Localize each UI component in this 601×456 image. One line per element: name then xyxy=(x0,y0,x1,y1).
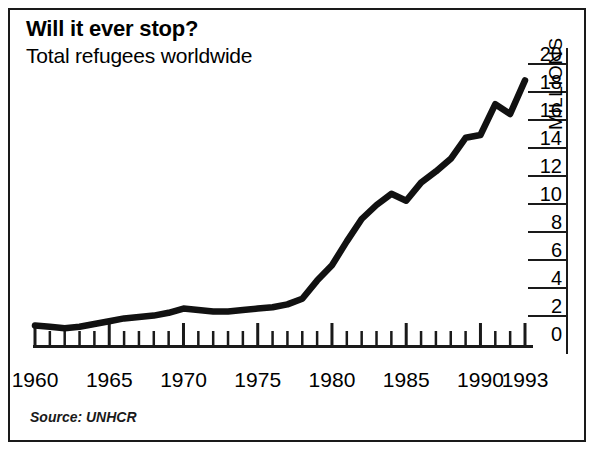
y-axis-tick-label: 12 xyxy=(540,156,562,176)
x-axis-minor-tick xyxy=(212,331,215,345)
y-axis-tick-rule xyxy=(528,287,568,289)
x-axis-major-tick xyxy=(182,323,185,345)
x-axis-minor-tick xyxy=(63,331,66,345)
x-axis-tick-label: 1990 xyxy=(457,368,504,392)
x-axis-minor-tick xyxy=(435,331,438,345)
x-axis-minor-tick xyxy=(316,331,319,345)
y-axis-tick-rule xyxy=(528,231,568,233)
x-axis-minor-tick xyxy=(420,331,423,345)
x-axis-minor-tick xyxy=(123,331,126,345)
x-axis-minor-tick xyxy=(197,331,200,345)
x-axis-minor-tick xyxy=(390,331,393,345)
y-axis-tick-label: 2 xyxy=(551,296,562,316)
x-axis-tick-label: 1993 xyxy=(502,368,549,392)
x-axis-minor-tick xyxy=(93,331,96,345)
y-axis-tick-rule xyxy=(528,259,568,261)
x-axis-tick-label: 1980 xyxy=(309,368,356,392)
x-axis-minor-tick xyxy=(494,331,497,345)
y-axis-tick-label: 14 xyxy=(540,128,562,148)
x-axis-minor-tick xyxy=(301,331,304,345)
x-axis-minor-tick xyxy=(49,331,52,345)
x-axis-minor-tick xyxy=(242,331,245,345)
x-axis-minor-tick xyxy=(138,331,141,345)
y-axis-tick-rule xyxy=(528,315,568,317)
x-axis-tick-label: 1960 xyxy=(12,368,59,392)
y-axis-title: MILLIONS xyxy=(545,0,567,130)
x-axis-minor-tick xyxy=(167,331,170,345)
x-axis-minor-tick xyxy=(227,331,230,345)
data-line-total-refugees xyxy=(35,80,525,328)
x-axis-minor-tick xyxy=(360,331,363,345)
y-axis-tick-rule xyxy=(528,175,568,177)
y-axis-tick-label: 10 xyxy=(540,184,562,204)
x-axis-major-tick xyxy=(330,323,333,345)
x-axis-major-tick xyxy=(256,323,259,345)
x-axis-tick-label: 1965 xyxy=(86,368,133,392)
data-line-layer xyxy=(35,80,525,328)
y-axis-tick-rule xyxy=(528,203,568,205)
x-axis-minor-tick xyxy=(509,331,512,345)
x-axis-major-tick xyxy=(524,323,527,345)
x-axis-major-tick xyxy=(405,323,408,345)
x-axis-minor-tick xyxy=(271,331,274,345)
axis-layer xyxy=(33,323,533,348)
x-axis-minor-tick xyxy=(286,331,289,345)
chart-figure: Will it ever stop? Total refugees worldw… xyxy=(0,0,601,456)
y-axis-tick-label: 6 xyxy=(551,240,562,260)
x-axis-minor-tick xyxy=(464,331,467,345)
source-note: Source: UNHCR xyxy=(30,409,137,425)
x-axis-minor-tick xyxy=(153,331,156,345)
x-axis-major-tick xyxy=(479,323,482,345)
x-axis-minor-tick xyxy=(450,331,453,345)
y-axis-tick-label: 0 xyxy=(551,324,562,344)
y-axis-tick-rule xyxy=(528,147,568,149)
x-axis-tick-label: 1970 xyxy=(160,368,207,392)
x-axis-minor-tick xyxy=(375,331,378,345)
x-axis-spine xyxy=(33,345,533,348)
x-axis-tick-label: 1985 xyxy=(383,368,430,392)
x-axis-tick-label: 1975 xyxy=(234,368,281,392)
y-axis-tick-label: 8 xyxy=(551,212,562,232)
x-axis-minor-tick xyxy=(346,331,349,345)
x-axis-minor-tick xyxy=(78,331,81,345)
x-axis-major-tick xyxy=(108,323,111,345)
y-axis-tick-label: 4 xyxy=(551,268,562,288)
